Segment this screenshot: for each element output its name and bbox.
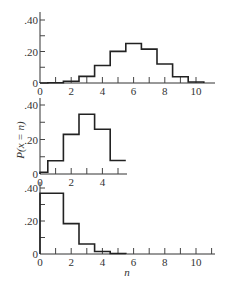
histogram-panel-bottom: .40.2000246810: [24, 182, 215, 268]
x-tick-label: 10: [191, 256, 203, 268]
step-histogram-line: [40, 43, 204, 83]
x-tick-label: 2: [68, 176, 74, 188]
y-tick-label: .40: [24, 14, 38, 26]
x-axis-label: n: [124, 266, 130, 278]
x-tick-label: 8: [162, 256, 168, 268]
figure: .40.2000246810.40.200024.40.2000246810P(…: [0, 0, 225, 289]
x-tick-label: 0: [37, 256, 43, 268]
y-tick-label: .20: [24, 215, 38, 227]
x-tick-label: 4: [100, 176, 106, 188]
x-tick-label: 4: [100, 85, 106, 97]
x-tick-label: 6: [131, 256, 137, 268]
x-tick-label: 6: [131, 85, 137, 97]
step-histogram-line: [40, 193, 126, 254]
x-tick-label: 0: [37, 85, 43, 97]
x-tick-label: 2: [68, 256, 74, 268]
y-tick-label: .20: [24, 46, 38, 58]
y-tick-label: .40: [24, 182, 38, 194]
histogram-panel-top: .40.2000246810: [24, 12, 215, 97]
step-histogram-line: [40, 114, 126, 174]
x-tick-label: 10: [191, 85, 203, 97]
y-axis-label: P(x = n): [14, 121, 27, 160]
histogram-panel-middle: .40.200024: [24, 98, 127, 188]
x-tick-label: 8: [162, 85, 168, 97]
y-tick-label: .20: [24, 134, 38, 146]
x-tick-label: 2: [68, 85, 74, 97]
x-tick-label: 4: [100, 256, 106, 268]
y-tick-label: .40: [24, 99, 38, 111]
